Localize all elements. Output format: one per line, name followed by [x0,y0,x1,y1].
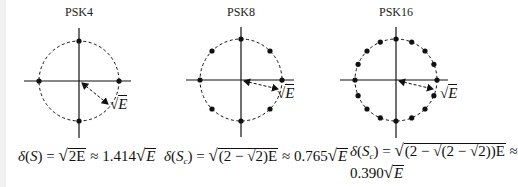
constellation-point [238,118,243,123]
constellation-point [431,62,436,67]
psk4-amplitude-arrow [82,83,108,104]
constellation-point [356,62,361,67]
constellation-point [238,36,243,41]
psk16-amplitude-arrow [399,81,433,89]
constellation-point [209,106,214,111]
psk8-distance-formula: δ(Sc) = √(2 − √2)E ≈ 0.765√E [164,146,348,166]
constellation-point [364,106,369,111]
psk16-distance-formula-line2: 0.390√E [350,163,404,183]
constellation-point [409,40,414,45]
constellation-point [409,115,414,120]
psk16-sqrt-e-label: √E [440,85,457,102]
psk4-distance-formula: δ(S) = √2E ≈ 1.414√E [18,146,156,166]
constellation-point [422,106,427,111]
constellation-point [36,78,41,83]
constellation-point [197,77,202,82]
constellation-point [434,77,439,82]
psk16-title: PSK16 [379,5,413,19]
psk4-sqrt-e-label: √E [110,96,127,113]
constellation-point [116,78,121,83]
psk8-sqrt-e-label: √E [277,85,294,102]
constellation-point [209,48,214,53]
constellation-point [76,118,81,123]
constellation-point [279,77,284,82]
psk8-amplitude-arrow [244,81,278,89]
constellation-point [76,38,81,43]
constellation-point [378,115,383,120]
psk4-diagram: PSK4 [24,5,131,138]
constellation-point [267,106,272,111]
constellation-point [267,48,272,53]
psk4-title: PSK4 [65,5,93,19]
constellation-point [393,118,398,123]
constellation-point [422,48,427,53]
constellation-point [364,48,369,53]
constellation-point [356,93,361,98]
constellation-point [378,40,383,45]
constellation-point [352,77,357,82]
psk16-diagram: PSK16 [340,5,448,138]
psk8-diagram: PSK8 [186,5,294,137]
psk8-title: PSK8 [227,5,255,19]
psk16-distance-formula: δ(Sc) = √(2 − √(2 − √2))E ≈ [350,141,518,161]
constellation-point [393,36,398,41]
constellation-point [431,93,436,98]
